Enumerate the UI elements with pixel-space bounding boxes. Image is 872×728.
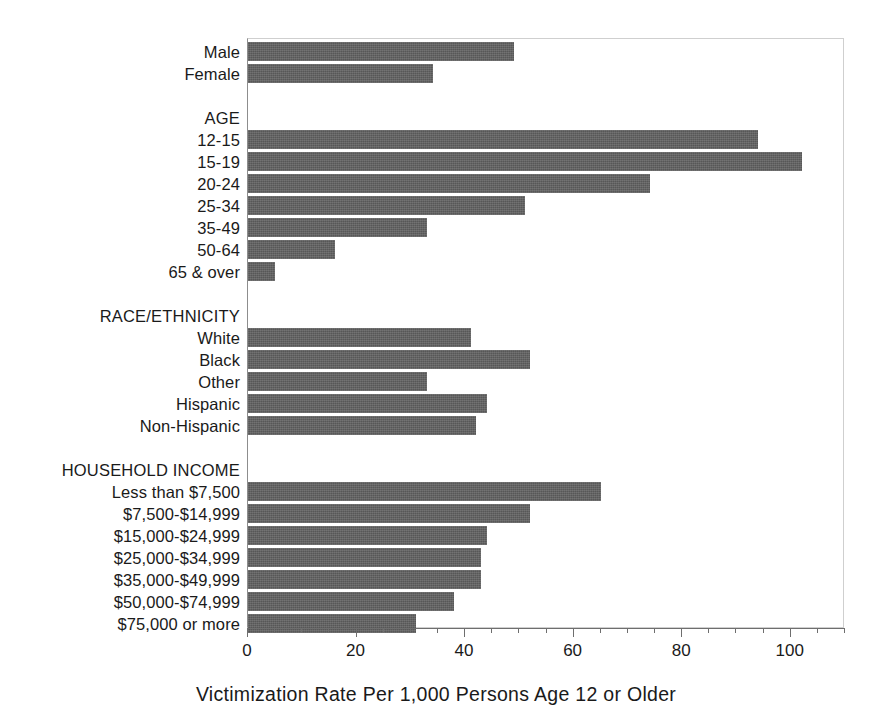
category-label: $50,000-$74,999 bbox=[114, 591, 240, 613]
bar bbox=[248, 196, 525, 215]
category-label: White bbox=[197, 327, 240, 349]
minor-tick bbox=[600, 628, 601, 633]
minor-tick bbox=[274, 628, 275, 633]
minor-tick bbox=[518, 628, 519, 633]
bar bbox=[248, 328, 471, 347]
bar bbox=[248, 548, 481, 567]
bar-row: $50,000-$74,999 bbox=[247, 591, 844, 613]
bar-row: Black bbox=[247, 349, 844, 371]
spacer-row bbox=[247, 283, 844, 305]
minor-tick bbox=[437, 628, 438, 633]
minor-tick bbox=[546, 628, 547, 633]
category-label: $25,000-$34,999 bbox=[114, 547, 240, 569]
category-label: 65 & over bbox=[168, 261, 240, 283]
bar-row: $35,000-$49,999 bbox=[247, 569, 844, 591]
group-heading-row: AGE bbox=[247, 107, 844, 129]
bar-row: Female bbox=[247, 63, 844, 85]
category-label: Hispanic bbox=[176, 393, 240, 415]
category-label: 25-34 bbox=[197, 195, 240, 217]
group-label: AGE bbox=[205, 107, 240, 129]
bar bbox=[248, 526, 487, 545]
category-label: $7,500-$14,999 bbox=[123, 503, 240, 525]
bar-row: $25,000-$34,999 bbox=[247, 547, 844, 569]
category-label: Non-Hispanic bbox=[140, 415, 240, 437]
category-label: 12-15 bbox=[197, 129, 240, 151]
bar-row: 15-19 bbox=[247, 151, 844, 173]
x-tick-label: 100 bbox=[776, 641, 804, 661]
x-axis-title: Victimization Rate Per 1,000 Persons Age… bbox=[0, 683, 872, 706]
category-label: $75,000 or more bbox=[117, 613, 240, 635]
major-tick bbox=[356, 628, 357, 637]
category-label: 35-49 bbox=[197, 217, 240, 239]
x-tick-label: 20 bbox=[346, 641, 365, 661]
bar-row: Male bbox=[247, 41, 844, 63]
major-tick bbox=[681, 628, 682, 637]
minor-tick bbox=[491, 628, 492, 633]
bar-row: Non-Hispanic bbox=[247, 415, 844, 437]
bar bbox=[248, 240, 335, 259]
bar-row: $15,000-$24,999 bbox=[247, 525, 844, 547]
minor-tick bbox=[654, 628, 655, 633]
group-heading-row: HOUSEHOLD INCOME bbox=[247, 459, 844, 481]
bar bbox=[248, 174, 650, 193]
category-label: 50-64 bbox=[197, 239, 240, 261]
major-tick bbox=[247, 628, 248, 637]
category-label: 15-19 bbox=[197, 151, 240, 173]
category-label: $15,000-$24,999 bbox=[114, 525, 240, 547]
bar bbox=[248, 482, 601, 501]
category-label: 20-24 bbox=[197, 173, 240, 195]
bar bbox=[248, 372, 427, 391]
minor-tick bbox=[817, 628, 818, 633]
bar-row: 12-15 bbox=[247, 129, 844, 151]
spacer-row bbox=[247, 437, 844, 459]
category-label: Male bbox=[204, 41, 240, 63]
minor-tick bbox=[301, 628, 302, 633]
bar bbox=[248, 218, 427, 237]
bar bbox=[248, 504, 530, 523]
major-tick bbox=[573, 628, 574, 637]
major-tick bbox=[790, 628, 791, 637]
bar bbox=[248, 394, 487, 413]
bar-row: Less than $7,500 bbox=[247, 481, 844, 503]
bar-row: 65 & over bbox=[247, 261, 844, 283]
major-tick bbox=[464, 628, 465, 637]
category-label: Female bbox=[184, 63, 240, 85]
minor-tick bbox=[763, 628, 764, 633]
bar bbox=[248, 42, 514, 61]
bar-row: 35-49 bbox=[247, 217, 844, 239]
minor-tick bbox=[735, 628, 736, 633]
bar-row: $7,500-$14,999 bbox=[247, 503, 844, 525]
bar bbox=[248, 592, 454, 611]
group-label: HOUSEHOLD INCOME bbox=[62, 459, 240, 481]
bar-row: 25-34 bbox=[247, 195, 844, 217]
x-tick-label: 80 bbox=[672, 641, 691, 661]
minor-tick bbox=[627, 628, 628, 633]
bar-row: Other bbox=[247, 371, 844, 393]
x-tick-label: 0 bbox=[242, 641, 251, 661]
bar-row: White bbox=[247, 327, 844, 349]
group-heading-row: RACE/ETHNICITY bbox=[247, 305, 844, 327]
category-label: Black bbox=[199, 349, 240, 371]
category-label: Less than $7,500 bbox=[112, 481, 240, 503]
category-label: $35,000-$49,999 bbox=[114, 569, 240, 591]
bar-row: 20-24 bbox=[247, 173, 844, 195]
group-label: RACE/ETHNICITY bbox=[100, 305, 240, 327]
x-tick-label: 40 bbox=[455, 641, 474, 661]
bar bbox=[248, 64, 433, 83]
bar bbox=[248, 570, 481, 589]
bar bbox=[248, 152, 802, 171]
minor-tick bbox=[844, 628, 845, 633]
bar bbox=[248, 350, 530, 369]
minor-tick bbox=[708, 628, 709, 633]
category-label: Other bbox=[198, 371, 240, 393]
bar bbox=[248, 416, 476, 435]
minor-tick bbox=[383, 628, 384, 633]
bar-row: Hispanic bbox=[247, 393, 844, 415]
minor-tick bbox=[410, 628, 411, 633]
bar-row: 50-64 bbox=[247, 239, 844, 261]
minor-tick bbox=[328, 628, 329, 633]
bar bbox=[248, 130, 758, 149]
spacer-row bbox=[247, 85, 844, 107]
x-tick-label: 60 bbox=[563, 641, 582, 661]
bar bbox=[248, 262, 275, 281]
